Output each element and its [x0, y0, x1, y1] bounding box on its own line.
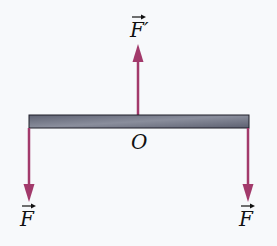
- force-arrow-f-prime: [133, 44, 144, 115]
- force-diagram: F′ F F O: [0, 0, 277, 246]
- label-f-left: F: [19, 207, 35, 231]
- force-arrow-f-left: [24, 128, 35, 202]
- label-f-right: F: [238, 207, 254, 231]
- force-arrow-f-right: [243, 128, 254, 202]
- label-center-o: O: [131, 130, 147, 154]
- label-f-prime: F′: [129, 18, 149, 42]
- diagram-svg: F′ F F O: [0, 0, 277, 246]
- beam: [29, 115, 249, 128]
